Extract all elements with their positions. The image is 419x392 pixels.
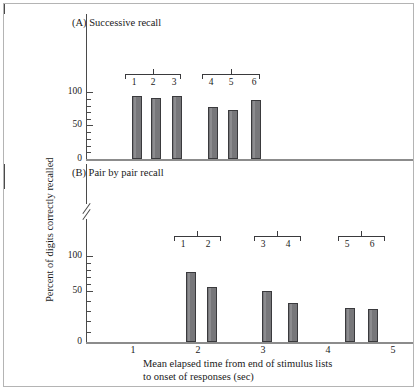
panel-b-yminor-90	[87, 263, 91, 264]
panel-b-bar-pos-1	[186, 272, 196, 342]
panel-b-bracket-2-num-4: 4	[281, 239, 295, 249]
panel-a-bracket-2-num-4: 4	[204, 77, 218, 87]
panel-b-y-axis-upper	[86, 164, 87, 204]
panel-b-bracket-2-stem	[277, 231, 278, 236]
panel-b-yminor-40	[87, 301, 91, 302]
panel-b-xtick-5	[4, 184, 5, 189]
panel-b-ytick-50	[87, 291, 93, 292]
panel-b-bar-pos-4	[288, 303, 298, 342]
panel-b-bracket-2-num-3: 3	[256, 239, 270, 249]
panel-a-bracket-2-num-6: 6	[247, 77, 261, 87]
panel-a-bar-pos-5	[228, 110, 238, 159]
panel-b-bracket-3-num-5: 5	[340, 239, 354, 249]
panel-b-bar-pos-3	[262, 291, 272, 342]
panel-b-ylabel-50: 50	[56, 285, 82, 295]
panel-b-bar-pos-6	[368, 309, 378, 342]
panel-a-bracket-1-num-1: 1	[127, 77, 141, 87]
panel-a-ytick-100	[87, 92, 93, 93]
panel-a-bar-pos-1	[132, 96, 142, 159]
panel-a-successive-recall: (A) Successive recall 100 50 0 1 2 3 4	[4, 4, 415, 164]
panel-a-bracket-1-num-3: 3	[167, 77, 181, 87]
panel-a-bar-pos-2	[151, 98, 161, 159]
panel-a-ylabel-100: 100	[56, 86, 82, 96]
panel-b-yminor-30	[87, 311, 91, 312]
figure-frame: Percent of digits correctly recalled (A)…	[3, 3, 414, 387]
panel-a-ylabel-0: 0	[56, 153, 82, 163]
panel-b-yminor-10	[87, 332, 91, 333]
panel-a-bracket-1-stem	[153, 69, 154, 74]
panel-b-bracket-1-num-1: 1	[176, 239, 190, 249]
panel-a-ytick-50	[87, 125, 93, 126]
panel-a-yminor-80	[87, 106, 91, 107]
panel-b-yminor-60	[87, 284, 91, 285]
panel-b-bracket-3-stem	[361, 231, 362, 236]
panel-b-bracket-1-stem	[197, 231, 198, 236]
panel-b-ylabel-100: 100	[56, 250, 82, 260]
panel-b-xlabel-2: 2	[190, 344, 206, 355]
panel-a-bar-pos-3	[172, 96, 182, 159]
x-axis-caption-line2: to onset of responses (sec)	[143, 371, 254, 382]
x-axis-caption-line1: Mean elapsed time from end of stimulus l…	[143, 358, 332, 369]
panel-a-yminor-20	[87, 146, 91, 147]
panel-b-xlabel-1: 1	[125, 344, 141, 355]
panel-a-bracket-2-stem	[231, 69, 232, 74]
panel-b-bar-pos-5	[345, 308, 355, 342]
panel-b-ylabel-0: 0	[56, 336, 82, 346]
panel-b-yminor-80	[87, 270, 91, 271]
panel-b-bracket-1-num-2: 2	[201, 239, 215, 249]
panel-a-xtick-5	[4, 9, 5, 14]
panel-a-bracket-1-num-2: 2	[146, 77, 160, 87]
panel-a-yminor-90	[87, 99, 91, 100]
panel-a-yminor-60	[87, 119, 91, 120]
panel-a-ylabel-50: 50	[56, 119, 82, 129]
panel-b-ytick-100	[87, 256, 93, 257]
panel-a-bar-pos-6	[251, 100, 261, 159]
panel-a-yminor-30	[87, 139, 91, 140]
panel-b-yminor-20	[87, 321, 91, 322]
panel-b-bar-pos-2	[207, 287, 217, 342]
panel-a-yminor-70	[87, 112, 91, 113]
panel-a-yminor-40	[87, 132, 91, 133]
panel-a-bar-pos-4	[208, 107, 218, 159]
panel-b-y-axis	[86, 219, 87, 343]
panel-a-x-axis	[86, 159, 413, 161]
panel-a-yminor-10	[87, 152, 91, 153]
y-axis-break-icon	[80, 204, 96, 220]
panel-a-bracket-2-num-5: 5	[224, 77, 238, 87]
panel-b-pair-by-pair-recall: (B) Pair by pair recall 100 50 0	[4, 164, 415, 388]
panel-b-yminor-70	[87, 277, 91, 278]
panel-b-xlabel-5: 5	[385, 344, 401, 355]
panel-b-xlabel-3: 3	[255, 344, 271, 355]
panel-b-bracket-3-num-6: 6	[365, 239, 379, 249]
panel-b-xlabel-4: 4	[320, 344, 336, 355]
